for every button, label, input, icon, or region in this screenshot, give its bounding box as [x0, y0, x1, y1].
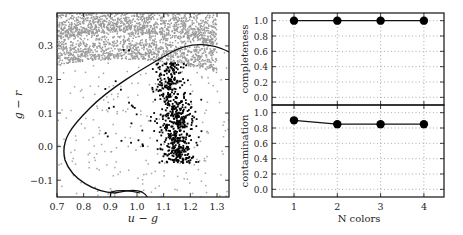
background-point	[88, 52, 90, 54]
background-point	[60, 37, 62, 39]
background-point	[102, 23, 104, 25]
background-point	[145, 73, 147, 75]
selected-point	[191, 118, 193, 120]
background-point	[192, 64, 194, 66]
selected-point	[169, 130, 171, 132]
background-point	[74, 20, 76, 22]
background-point	[89, 30, 91, 32]
background-point	[187, 41, 189, 43]
background-point	[146, 26, 148, 28]
background-point	[123, 17, 125, 19]
background-point	[151, 173, 153, 175]
background-point	[164, 162, 166, 164]
background-point	[108, 22, 110, 24]
background-point	[72, 54, 74, 56]
background-point	[214, 36, 216, 38]
background-point	[178, 0, 180, 1]
background-point	[95, 29, 97, 31]
selected-point	[174, 91, 176, 93]
selected-point	[183, 67, 185, 69]
background-point	[69, 52, 71, 54]
metrics-series	[290, 16, 428, 128]
background-point	[147, 49, 149, 51]
background-point	[110, 55, 112, 57]
selected-point	[160, 114, 162, 116]
background-point	[98, 169, 100, 171]
background-point	[169, 0, 171, 1]
background-point	[122, 5, 124, 7]
background-point	[111, 9, 113, 11]
selected-point	[161, 160, 163, 162]
background-point	[154, 14, 156, 16]
background-point	[212, 17, 214, 19]
background-point	[63, 72, 65, 74]
background-point	[156, 45, 158, 47]
background-point	[94, 28, 96, 30]
background-point	[170, 19, 172, 21]
background-point	[119, 19, 121, 21]
background-point	[133, 32, 135, 34]
background-point	[70, 50, 72, 52]
selected-point	[105, 132, 107, 134]
background-point	[67, 62, 69, 64]
background-point	[203, 60, 205, 62]
background-point	[89, 54, 91, 56]
background-point	[129, 20, 131, 22]
y-tick-label: −0.1	[30, 175, 53, 186]
background-point	[137, 26, 139, 28]
background-point	[119, 27, 121, 29]
background-point	[68, 21, 70, 23]
selected-point	[174, 62, 176, 64]
background-point	[53, 63, 55, 65]
selected-point	[176, 117, 178, 119]
background-point	[97, 16, 99, 18]
background-point	[210, 43, 212, 45]
background-point	[52, 64, 54, 65]
background-point	[147, 1, 149, 2]
background-point	[52, 54, 54, 56]
background-point	[120, 86, 122, 88]
selected-point	[196, 142, 198, 144]
background-point	[77, 40, 79, 42]
background-point	[140, 114, 142, 116]
background-point	[62, 15, 64, 17]
background-point	[83, 11, 85, 13]
background-point	[172, 16, 174, 18]
background-point	[137, 43, 139, 45]
selected-point	[172, 112, 174, 114]
background-point	[110, 2, 112, 4]
background-point	[117, 20, 119, 22]
selected-point	[134, 107, 136, 109]
background-point	[191, 28, 193, 30]
background-point	[117, 10, 119, 12]
background-point	[88, 33, 90, 35]
selected-point	[165, 81, 167, 83]
background-point	[66, 19, 68, 21]
background-point	[207, 15, 209, 16]
background-point	[94, 160, 96, 162]
background-point	[152, 49, 154, 51]
contamination-line	[294, 120, 424, 124]
background-point	[117, 96, 119, 98]
background-point	[59, 23, 61, 25]
background-point	[214, 61, 216, 63]
background-point	[94, 58, 96, 60]
background-point	[66, 34, 68, 36]
background-point	[150, 27, 152, 29]
background-point	[226, 67, 228, 69]
background-point	[51, 58, 53, 60]
background-point	[177, 50, 179, 52]
background-point	[142, 11, 144, 13]
background-point	[97, 108, 99, 110]
background-point	[137, 23, 139, 25]
background-point	[173, 1, 175, 2]
selected-point	[183, 151, 185, 153]
selected-point	[178, 144, 180, 146]
background-point	[195, 31, 197, 32]
background-point	[159, 11, 161, 13]
selected-point	[165, 137, 167, 139]
background-point	[93, 10, 95, 12]
background-point	[92, 59, 94, 61]
selected-point	[156, 122, 158, 124]
background-point	[111, 47, 113, 49]
